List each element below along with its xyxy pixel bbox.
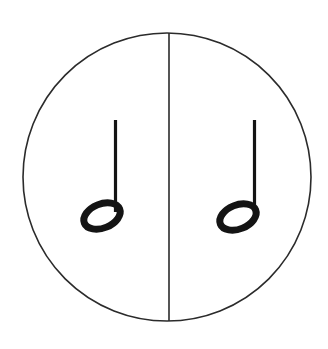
- fraction-diagram: [0, 0, 328, 349]
- background-rect: [0, 0, 328, 349]
- figure-canvas: Circle divided in half with one half not…: [0, 0, 328, 349]
